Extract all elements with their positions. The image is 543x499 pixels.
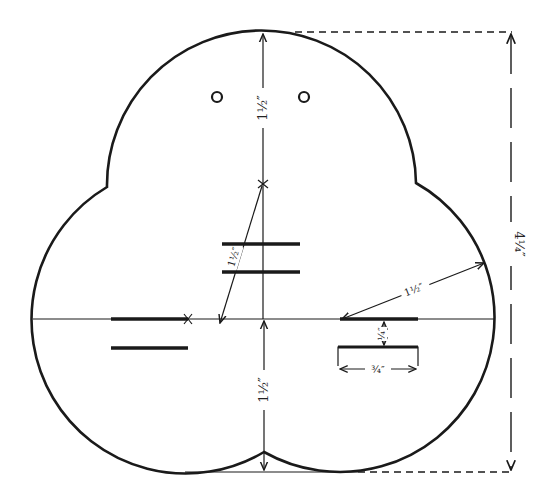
- hole-right: [299, 92, 309, 102]
- bottom-radius-label: 1½″: [256, 377, 271, 403]
- hole-left: [212, 92, 222, 102]
- slot-width-label: ¾″: [371, 364, 385, 375]
- top-radius-label: 1½″: [255, 95, 270, 121]
- diagonal-radius-label: 1½″: [225, 246, 241, 268]
- slot-gap-label: ¼″: [376, 327, 387, 341]
- height-label: 4¼″: [512, 231, 527, 257]
- trefoil-diagram: 4¼″ 1½″ 1½″ 1½″ 1½″ ¼″ ¾″: [0, 0, 543, 499]
